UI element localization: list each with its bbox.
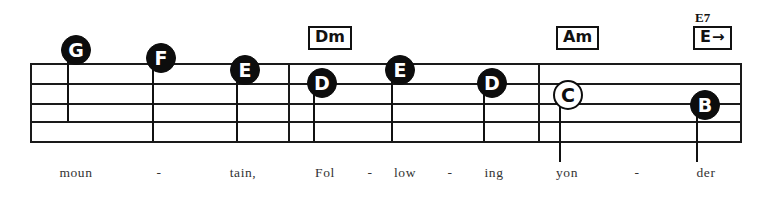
staff-left-edge bbox=[30, 63, 32, 143]
notehead-b-8[interactable]: B bbox=[690, 90, 720, 120]
staff-line-2 bbox=[30, 83, 742, 85]
lyric-hyphen-10: - bbox=[634, 165, 639, 181]
notehead-e-3[interactable]: E bbox=[230, 55, 260, 85]
chord-box-am[interactable]: Am bbox=[556, 26, 599, 50]
staff-right-edge bbox=[740, 63, 742, 143]
chord-box-dm[interactable]: Dm bbox=[308, 26, 352, 50]
lyric-hyphen-5: - bbox=[367, 165, 372, 181]
lyric-syllable-3: tain, bbox=[230, 165, 257, 181]
lyric-syllable-1: moun bbox=[59, 165, 92, 181]
staff-line-5 bbox=[30, 141, 742, 143]
chord-superscript-e7: E7 bbox=[695, 10, 710, 26]
lyric-syllable-11: der bbox=[696, 165, 715, 181]
chord-box-e7[interactable]: E→ bbox=[693, 26, 732, 50]
notehead-g-1[interactable]: G bbox=[61, 35, 91, 65]
chord-label-dm: Dm bbox=[315, 29, 345, 46]
music-sheet-canvas: GFEDEDCB DmAmE7E→ moun-tain,Fol-low-ingy… bbox=[0, 0, 781, 200]
chord-label-e7: E bbox=[700, 29, 711, 46]
lyric-hyphen-7: - bbox=[447, 165, 452, 181]
barline-2 bbox=[538, 63, 540, 143]
notehead-d-6[interactable]: D bbox=[477, 68, 507, 98]
lyric-syllable-6: low bbox=[394, 165, 416, 181]
staff-line-3 bbox=[30, 103, 742, 105]
lyric-syllable-9: yon bbox=[556, 165, 578, 181]
staff-line-4 bbox=[30, 121, 742, 123]
barline-1 bbox=[288, 63, 290, 143]
lyric-hyphen-2: - bbox=[156, 165, 161, 181]
notehead-f-2[interactable]: F bbox=[146, 43, 176, 73]
notehead-c-7[interactable]: C bbox=[553, 80, 583, 110]
notehead-d-4[interactable]: D bbox=[307, 68, 337, 98]
chord-label-am: Am bbox=[563, 29, 592, 46]
lyric-syllable-8: ing bbox=[484, 165, 503, 181]
chord-arrow-icon: → bbox=[712, 30, 725, 45]
notehead-e-5[interactable]: E bbox=[385, 55, 415, 85]
lyric-syllable-4: Fol bbox=[315, 165, 335, 181]
